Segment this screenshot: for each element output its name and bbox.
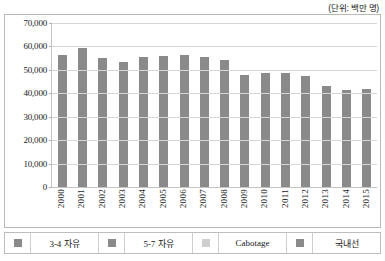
plot-area bbox=[51, 23, 377, 188]
bar-slot bbox=[52, 23, 72, 187]
bar-slot bbox=[275, 23, 295, 187]
bar-slot bbox=[235, 23, 255, 187]
unit-note: (단위: 백만 명) bbox=[328, 1, 379, 13]
legend-swatch-cell[interactable] bbox=[5, 233, 31, 253]
y-axis-tick bbox=[49, 140, 52, 141]
x-axis-label: 2001 bbox=[76, 189, 86, 208]
legend-label[interactable]: 5-7 자유 bbox=[125, 233, 193, 253]
x-label-slot: 2010 bbox=[254, 189, 274, 227]
bar bbox=[342, 90, 351, 187]
bar-slot bbox=[174, 23, 194, 187]
legend-label[interactable]: 3-4 자유 bbox=[31, 233, 99, 253]
x-axis-label: 2010 bbox=[259, 189, 269, 208]
x-axis-label: 2012 bbox=[300, 189, 310, 208]
x-axis-label: 2007 bbox=[198, 189, 208, 208]
x-label-slot: 2012 bbox=[295, 189, 315, 227]
legend-label[interactable]: 국내선 bbox=[313, 233, 380, 253]
bar bbox=[281, 73, 290, 187]
x-axis-label: 2015 bbox=[361, 189, 371, 208]
y-axis-label: 60,000 bbox=[23, 41, 47, 51]
gridline bbox=[52, 23, 377, 24]
legend-swatch-cabotage bbox=[202, 239, 210, 247]
chart-screenshot: (단위: 백만 명) 70,00060,00050,00040,00030,00… bbox=[0, 0, 385, 261]
y-axis-tick bbox=[49, 23, 52, 24]
gridline bbox=[52, 46, 377, 47]
bar-slot bbox=[316, 23, 336, 187]
bar-series-3-4-freedom bbox=[52, 23, 377, 187]
bar-slot bbox=[93, 23, 113, 187]
x-axis-label: 2003 bbox=[117, 189, 127, 208]
x-label-slot: 2001 bbox=[71, 189, 91, 227]
x-axis-label: 2002 bbox=[97, 189, 107, 208]
y-axis-label: 20,000 bbox=[23, 135, 47, 145]
y-axis-tick bbox=[49, 46, 52, 47]
x-axis-labels: 2000200120022003200420052006200720082009… bbox=[51, 189, 376, 227]
gridline bbox=[52, 140, 377, 141]
x-label-slot: 2003 bbox=[112, 189, 132, 227]
bar bbox=[58, 55, 67, 187]
x-axis-label: 2006 bbox=[178, 189, 188, 208]
bar bbox=[200, 57, 209, 187]
x-label-slot: 2006 bbox=[173, 189, 193, 227]
x-axis-label: 2000 bbox=[56, 189, 66, 208]
legend-swatch-cell[interactable] bbox=[287, 233, 313, 253]
plot-wrapper: 70,00060,00050,00040,00030,00020,00010,0… bbox=[5, 15, 380, 227]
x-label-slot: 2007 bbox=[193, 189, 213, 227]
y-axis-tick bbox=[49, 117, 52, 118]
chart-frame: 70,00060,00050,00040,00030,00020,00010,0… bbox=[4, 14, 381, 228]
x-label-slot: 2014 bbox=[335, 189, 355, 227]
bar bbox=[159, 56, 168, 187]
gridline bbox=[52, 93, 377, 94]
x-axis-label: 2014 bbox=[341, 189, 351, 208]
y-axis-labels: 70,00060,00050,00040,00030,00020,00010,0… bbox=[5, 15, 50, 187]
x-label-slot: 2008 bbox=[214, 189, 234, 227]
x-label-slot: 2005 bbox=[153, 189, 173, 227]
y-axis-tick bbox=[49, 93, 52, 94]
y-axis-label: 70,000 bbox=[23, 18, 47, 28]
bar bbox=[119, 62, 128, 187]
y-axis-label: 0 bbox=[43, 182, 47, 192]
x-label-slot: 2000 bbox=[51, 189, 71, 227]
bar-slot bbox=[296, 23, 316, 187]
bar-slot bbox=[72, 23, 92, 187]
x-axis-label: 2008 bbox=[219, 189, 229, 208]
y-axis-label: 50,000 bbox=[23, 65, 47, 75]
bar bbox=[180, 55, 189, 187]
legend-label[interactable]: Cabotage bbox=[219, 233, 287, 253]
bar bbox=[322, 86, 331, 187]
y-axis-label: 40,000 bbox=[23, 88, 47, 98]
x-axis-label: 2013 bbox=[320, 189, 330, 208]
legend-swatch-cell[interactable] bbox=[193, 233, 219, 253]
gridline bbox=[52, 70, 377, 71]
x-label-slot: 2009 bbox=[234, 189, 254, 227]
y-axis-tick bbox=[49, 70, 52, 71]
legend-swatch-freedom-5-7 bbox=[108, 239, 116, 247]
legend-swatch-freedom-3-4 bbox=[14, 239, 22, 247]
chart-legend: 3-4 자유5-7 자유Cabotage국내선 bbox=[4, 232, 381, 254]
bar bbox=[362, 89, 371, 187]
bar bbox=[220, 60, 229, 187]
gridline bbox=[52, 164, 377, 165]
gridline bbox=[52, 117, 377, 118]
y-axis-tick bbox=[49, 164, 52, 165]
x-axis-label: 2005 bbox=[158, 189, 168, 208]
bar bbox=[240, 75, 249, 187]
x-label-slot: 2015 bbox=[356, 189, 376, 227]
bar bbox=[261, 73, 270, 187]
x-label-slot: 2013 bbox=[315, 189, 335, 227]
bar-slot bbox=[154, 23, 174, 187]
x-label-slot: 2011 bbox=[274, 189, 294, 227]
x-axis-label: 2011 bbox=[280, 189, 290, 208]
bar-slot bbox=[113, 23, 133, 187]
x-axis-label: 2004 bbox=[137, 189, 147, 208]
legend-swatch-domestic bbox=[296, 239, 304, 247]
bar-slot bbox=[336, 23, 356, 187]
bar bbox=[139, 57, 148, 187]
y-axis-tick bbox=[49, 187, 52, 188]
bar-slot bbox=[194, 23, 214, 187]
y-axis-label: 30,000 bbox=[23, 112, 47, 122]
y-axis-label: 10,000 bbox=[23, 159, 47, 169]
legend-swatch-cell[interactable] bbox=[99, 233, 125, 253]
bar-slot bbox=[215, 23, 235, 187]
x-label-slot: 2004 bbox=[132, 189, 152, 227]
